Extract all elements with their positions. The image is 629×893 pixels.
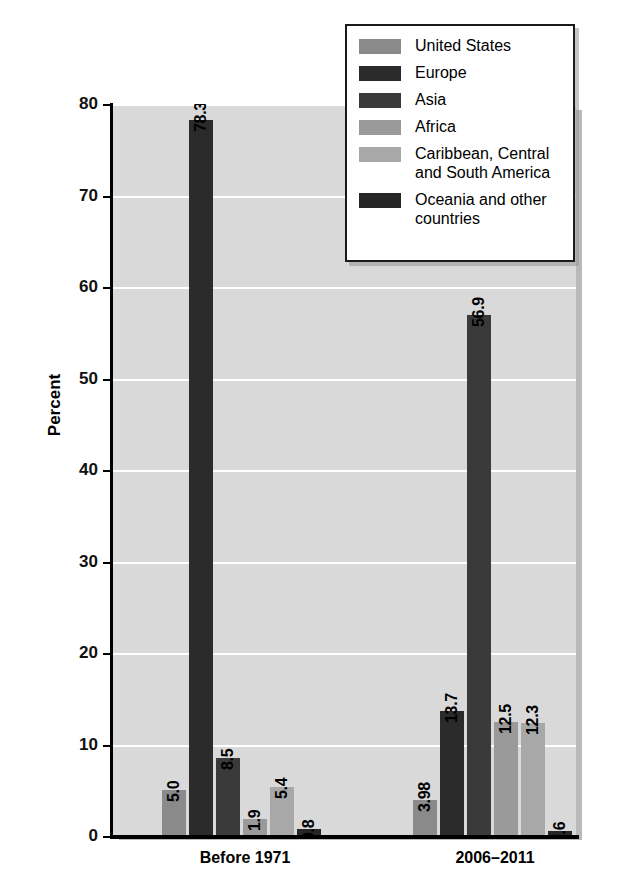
legend-item-2: Europe — [359, 63, 467, 82]
legend-swatch — [359, 93, 401, 108]
legend-swatch — [359, 193, 401, 208]
y-tick-label-30: 30 — [52, 552, 98, 572]
y-tick-0 — [103, 836, 113, 838]
gridline-60 — [113, 287, 576, 289]
legend-label: Oceania and other countries — [415, 190, 547, 228]
bar — [440, 711, 464, 836]
legend-label: Asia — [415, 90, 446, 109]
bar — [494, 722, 518, 836]
y-tick-label-0: 0 — [52, 826, 98, 846]
bar — [189, 120, 213, 836]
bar-value-label: 13.7 — [443, 693, 461, 723]
y-axis-title: Percent — [45, 345, 65, 465]
bar-value-label: 12.3 — [524, 706, 542, 736]
bar-value-label: 3.98 — [416, 782, 434, 812]
y-tick-10 — [103, 745, 113, 747]
bar — [467, 315, 491, 836]
legend-label: Europe — [415, 63, 467, 82]
chart-root: 5.078.38.51.95.40.83.9813.756.912.512.30… — [0, 0, 629, 893]
y-tick-50 — [103, 379, 113, 381]
y-tick-label-60: 60 — [52, 277, 98, 297]
legend-item-5: Caribbean, Central and South America — [359, 144, 550, 182]
y-tick-60 — [103, 287, 113, 289]
bar-value-label: 5.4 — [273, 777, 291, 798]
y-tick-20 — [103, 653, 113, 655]
gridline-30 — [113, 562, 576, 564]
chart-legend: United StatesEuropeAsiaAfricaCaribbean, … — [345, 24, 575, 262]
legend-swatch — [359, 147, 401, 162]
y-tick-label-80: 80 — [52, 94, 98, 114]
y-tick-70 — [103, 196, 113, 198]
y-tick-30 — [103, 562, 113, 564]
x-axis-line — [110, 835, 579, 839]
bar-value-label: 56.9 — [470, 297, 488, 327]
gridline-50 — [113, 379, 576, 381]
gridline-40 — [113, 470, 576, 472]
legend-label: Africa — [415, 117, 456, 136]
legend-swatch — [359, 66, 401, 81]
legend-item-4: Africa — [359, 117, 456, 136]
bar-value-label: 8.5 — [219, 749, 237, 770]
legend-label: Caribbean, Central and South America — [415, 144, 550, 182]
y-tick-label-70: 70 — [52, 186, 98, 206]
legend-item-6: Oceania and other countries — [359, 190, 547, 228]
bar-value-label: 78.3 — [192, 104, 210, 132]
legend-swatch — [359, 120, 401, 135]
legend-item-1: United States — [359, 36, 511, 55]
bar-value-label: 12.5 — [497, 704, 515, 734]
y-tick-40 — [103, 470, 113, 472]
y-tick-label-10: 10 — [52, 735, 98, 755]
x-axis-group-label: Before 1971 — [165, 849, 325, 867]
bar-value-label: 0.8 — [300, 819, 318, 836]
x-axis-group-label: 2006–2011 — [415, 849, 575, 867]
bar-value-label: 5.0 — [165, 781, 183, 802]
bar — [521, 723, 545, 836]
legend-swatch — [359, 39, 401, 54]
legend-item-3: Asia — [359, 90, 446, 109]
legend-label: United States — [415, 36, 511, 55]
y-tick-label-20: 20 — [52, 643, 98, 663]
bar-value-label: 0.6 — [551, 821, 569, 836]
bar-value-label: 1.9 — [246, 809, 264, 830]
gridline-20 — [113, 653, 576, 655]
y-tick-80 — [103, 104, 113, 106]
